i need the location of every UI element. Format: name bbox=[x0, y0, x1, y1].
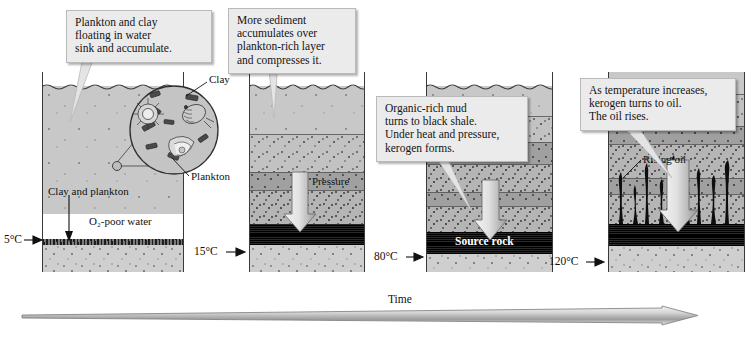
callout-plankton-accumulation: Plankton and clay floating in water sink… bbox=[66, 10, 212, 63]
diagram-root: Clay and plankton O₂-poor water bbox=[0, 0, 752, 342]
callout-kerogen-formation: Organic-rich mud turns to black shale. U… bbox=[376, 96, 528, 162]
callout-sediment-compression: More sediment accumulates over plankton-… bbox=[228, 8, 356, 74]
callout-oil-generation: As temperature increases, kerogen turns … bbox=[580, 78, 736, 131]
